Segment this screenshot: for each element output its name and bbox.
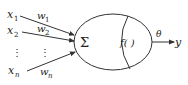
weight-wn: w n xyxy=(40,66,53,80)
input-x2: x 2 xyxy=(7,24,18,39)
svg-text:x: x xyxy=(7,8,14,21)
svg-text:1: 1 xyxy=(14,15,18,23)
output-y: y xyxy=(174,36,182,49)
svg-text:1: 1 xyxy=(45,16,49,24)
summation-symbol: Σ xyxy=(80,35,89,50)
svg-text:2: 2 xyxy=(14,31,18,39)
activation-function: f( ) xyxy=(119,37,135,48)
svg-text:n: n xyxy=(15,71,20,79)
svg-text:x: x xyxy=(7,24,14,37)
input-x1: x 1 xyxy=(7,8,18,23)
input-xn: x n xyxy=(8,64,20,79)
input-ellipsis: ⋮ xyxy=(12,47,22,58)
weight-w1: w 1 xyxy=(37,10,49,24)
neuron-diagram: x 1 x 2 ⋮ x n w 1 w 2 ⋮ w n Σ f( ) θ y xyxy=(0,0,188,85)
input-arrow-n xyxy=(27,52,75,71)
threshold-label: θ xyxy=(156,29,162,39)
weight-ellipsis: ⋮ xyxy=(40,47,50,58)
svg-text:n: n xyxy=(48,72,53,80)
svg-text:x: x xyxy=(8,64,15,77)
